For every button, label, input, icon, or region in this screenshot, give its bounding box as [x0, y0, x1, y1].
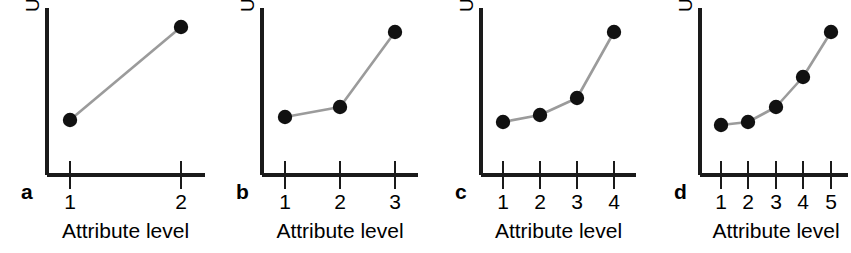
data-point-d-4: [796, 70, 810, 84]
x-tick-label-d-2: 2: [738, 191, 758, 212]
plot-area-d: [0, 0, 851, 253]
utility-attribute-level-figure: Utilitya12Attribute levelUtilityb123Attr…: [0, 0, 851, 253]
x-axis-label-d: Attribute level: [691, 220, 851, 241]
y-axis-label-d: Utility: [676, 0, 695, 12]
x-tick-label-d-3: 3: [766, 191, 786, 212]
data-point-d-5: [824, 25, 838, 39]
panel-letter-d: d: [674, 181, 687, 202]
data-point-d-3: [769, 100, 783, 114]
data-point-d-1: [714, 118, 728, 132]
x-tick-label-d-1: 1: [711, 191, 731, 212]
x-tick-label-d-4: 4: [793, 191, 813, 212]
x-tick-label-d-5: 5: [821, 191, 841, 212]
data-point-d-2: [741, 115, 755, 129]
